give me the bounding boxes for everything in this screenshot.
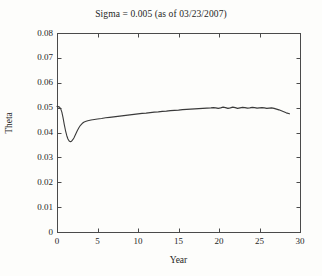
y-tick-label: 0 xyxy=(19,228,53,237)
y-tick-label: 0.01 xyxy=(19,203,53,212)
x-tick-label: 20 xyxy=(204,237,234,246)
y-tick-label: 0.07 xyxy=(19,53,53,62)
x-tick-label: 30 xyxy=(285,237,315,246)
data-series-group xyxy=(57,106,289,141)
y-tick-label: 0.03 xyxy=(19,153,53,162)
y-tick-label: 0.05 xyxy=(19,103,53,112)
x-tick-label: 0 xyxy=(42,237,72,246)
y-axis-tick-labels: 00.010.020.030.040.050.060.070.08 xyxy=(17,0,53,276)
x-tick-label: 15 xyxy=(164,237,194,246)
chart-figure: Sigma = 0.005 (as of 03/23/2007) 00.010.… xyxy=(0,0,322,276)
x-tick-label: 10 xyxy=(123,237,153,246)
y-tick-label: 0.04 xyxy=(19,128,53,137)
series-line-0 xyxy=(57,106,289,141)
y-tick-label: 0.02 xyxy=(19,178,53,187)
x-tick-label: 25 xyxy=(245,237,275,246)
axes-frame xyxy=(58,34,301,233)
x-axis-label: Year xyxy=(57,255,300,265)
x-tick-label: 5 xyxy=(83,237,113,246)
y-tick-label: 0.08 xyxy=(19,29,53,38)
y-axis-label: Theta xyxy=(4,95,14,151)
y-tick-label: 0.06 xyxy=(19,78,53,87)
x-axis-tick-labels: 051015202530 xyxy=(0,237,322,251)
axis-ticks xyxy=(58,34,301,233)
